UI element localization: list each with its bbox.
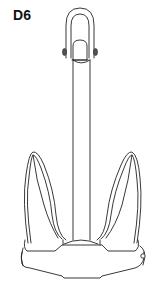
crown-pin	[141, 254, 145, 258]
shank-head	[72, 40, 88, 60]
fluke-left	[24, 152, 66, 243]
shank	[73, 60, 90, 240]
shackle-pin-right	[94, 49, 98, 56]
shackle-pin-left	[63, 49, 67, 56]
crown	[21, 240, 145, 278]
anchor-drawing	[0, 0, 155, 288]
fluke-right	[97, 152, 141, 243]
